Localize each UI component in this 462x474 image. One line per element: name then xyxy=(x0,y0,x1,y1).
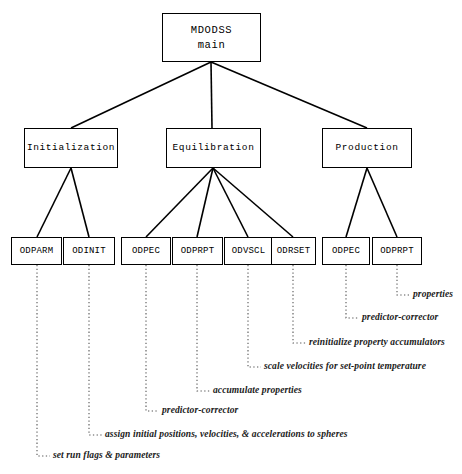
leader-odprpt-equil xyxy=(197,265,210,391)
edge-equilibration-odrset xyxy=(213,168,293,237)
annotation-odvscl: scale velocities for set-point temperatu… xyxy=(264,361,426,371)
leader-odrset xyxy=(293,265,306,343)
edge-initialization-odinit xyxy=(71,168,89,237)
annotation-odparm: set run flags & parameters xyxy=(53,450,160,460)
node-odvscl-label: ODVSCL xyxy=(232,245,266,257)
edge-initialization-odparm xyxy=(37,168,71,237)
node-production[interactable]: Production xyxy=(322,128,412,168)
node-odvscl[interactable]: ODVSCL xyxy=(224,237,273,265)
structure-chart-diagram: MDODSS main Initialization Equilibration… xyxy=(0,0,462,474)
edge-root-production xyxy=(211,62,367,128)
node-odpec-equilibration-label: ODPEC xyxy=(132,245,160,257)
node-production-label: Production xyxy=(335,142,398,155)
edge-equilibration-odprpt xyxy=(197,168,213,237)
annotation-odpec-equilibration: predictor-corrector xyxy=(162,405,238,415)
node-odprpt-production[interactable]: ODPRPT xyxy=(372,237,422,265)
node-odparm[interactable]: ODPARM xyxy=(11,237,62,265)
node-mdodss-line2: main xyxy=(198,38,226,52)
node-odprpt-equilibration-label: ODPRPT xyxy=(181,245,215,257)
node-odrset-label: ODRSET xyxy=(277,245,311,257)
leader-odpec-prod xyxy=(346,265,359,318)
node-initialization[interactable]: Initialization xyxy=(24,128,118,168)
leader-odvscl xyxy=(248,265,261,367)
node-mdodss-main[interactable]: MDODSS main xyxy=(162,13,261,62)
node-odpec-production-label: ODPEC xyxy=(332,245,360,257)
leader-odparm xyxy=(37,265,50,456)
leader-odprpt-prod xyxy=(397,265,410,295)
leader-odpec-equil xyxy=(146,265,159,411)
node-odprpt-production-label: ODPRPT xyxy=(380,245,414,257)
edge-equilibration-odvscl xyxy=(213,168,248,237)
edge-production-odpec xyxy=(346,168,367,237)
node-odinit[interactable]: ODINIT xyxy=(63,237,115,265)
annotation-odprpt-production: properties xyxy=(413,289,453,299)
node-initialization-label: Initialization xyxy=(27,142,115,155)
annotation-odrset: reinitialize property accumulators xyxy=(309,337,445,347)
node-equilibration-label: Equilibration xyxy=(173,142,255,155)
edge-root-initialization xyxy=(71,62,211,128)
node-equilibration[interactable]: Equilibration xyxy=(166,128,261,168)
annotation-odprpt-equilibration: accumulate properties xyxy=(213,385,302,395)
node-odprpt-equilibration[interactable]: ODPRPT xyxy=(172,237,223,265)
leader-odinit xyxy=(89,265,102,435)
annotation-odinit: assign initial positions, velocities, & … xyxy=(105,429,348,439)
edge-root-equilibration xyxy=(211,62,212,128)
node-odrset[interactable]: ODRSET xyxy=(271,237,316,265)
node-odinit-label: ODINIT xyxy=(72,245,106,257)
edge-equilibration-odpec xyxy=(146,168,213,237)
annotation-odpec-production: predictor-corrector xyxy=(362,312,438,322)
node-odpec-equilibration[interactable]: ODPEC xyxy=(121,237,171,265)
node-odparm-label: ODPARM xyxy=(20,245,54,257)
node-mdodss-line1: MDODSS xyxy=(191,23,232,37)
edge-production-odprpt xyxy=(367,168,397,237)
node-odpec-production[interactable]: ODPEC xyxy=(322,237,370,265)
